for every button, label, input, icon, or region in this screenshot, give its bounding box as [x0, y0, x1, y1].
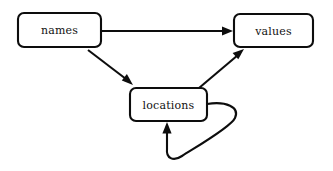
- node-locations[interactable]: locations: [130, 88, 207, 121]
- node-locations-label: locations: [143, 99, 195, 112]
- edge-names-to-locations-arrowhead: [122, 74, 133, 85]
- diagram-svg: names values locations: [0, 0, 333, 171]
- node-values-label: values: [254, 25, 292, 38]
- diagram-canvas: names values locations: [0, 0, 333, 171]
- node-names[interactable]: names: [18, 13, 101, 47]
- edge-names-to-locations: [88, 50, 133, 85]
- edge-locations-to-values-line: [199, 55, 238, 88]
- node-names-label: names: [41, 24, 78, 37]
- edge-names-to-values: [101, 26, 233, 35]
- node-values[interactable]: values: [234, 14, 313, 47]
- edge-locations-to-values: [199, 49, 244, 88]
- edge-names-to-values-arrowhead: [222, 26, 233, 35]
- edge-locations-self-loop-arrowhead: [162, 122, 171, 134]
- edge-names-to-locations-line: [88, 50, 126, 79]
